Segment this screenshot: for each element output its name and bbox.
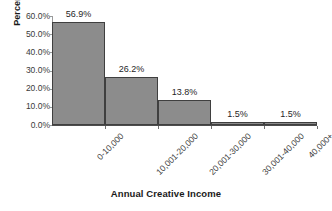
y-axis-tick-mark [49,125,52,126]
bar [264,122,317,125]
y-axis-tick-label: 40.0% [14,47,50,58]
bar-data-label: 56.9% [52,9,105,20]
x-axis-tick-mark [211,126,212,129]
y-axis-tick-label: 60.0% [14,11,50,22]
y-axis-tick-label: 0.0% [14,120,50,131]
x-axis-title: Annual Creative Income [0,188,332,199]
bar-data-label: 1.5% [264,109,317,120]
bar [211,122,264,125]
histogram-chart: Percent 0.0%10.0%20.0%30.0%40.0%50.0%60.… [0,0,332,211]
bar [158,100,211,125]
x-axis-tick-mark [317,126,318,129]
x-axis-category-label: 30,001-40,000 [260,131,306,177]
bar [52,22,105,125]
x-axis-tick-mark [105,126,106,129]
bar-data-label: 13.8% [158,87,211,98]
y-axis-tick-label: 10.0% [14,101,50,112]
bar-data-label: 26.2% [105,64,158,75]
y-axis-tick-labels: 0.0%10.0%20.0%30.0%40.0%50.0%60.0% [12,0,50,211]
x-axis-tick-mark [158,126,159,129]
x-axis-category-label: 40,000+ [306,131,332,160]
x-axis-category-label: 10,001-20,000 [154,131,200,177]
x-axis-category-label: 20,001-30,000 [207,131,253,177]
bar-data-label: 1.5% [211,109,264,120]
y-axis-tick-label: 50.0% [14,29,50,40]
y-axis-tick-label: 30.0% [14,65,50,76]
bar [105,77,158,125]
x-axis-category-label: 0-10,000 [95,131,126,162]
x-axis-tick-mark [264,126,265,129]
y-axis-tick-label: 20.0% [14,83,50,94]
